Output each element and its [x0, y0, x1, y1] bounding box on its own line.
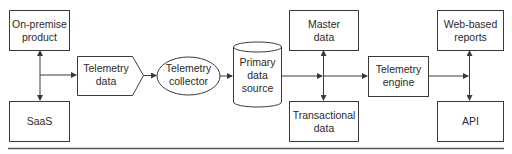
node-label: Master	[308, 18, 341, 30]
node-label: On-premise	[12, 18, 67, 30]
node-saas: SaaS	[10, 102, 70, 142]
middle-junction-connectors	[282, 51, 368, 100]
node-label: data	[314, 122, 335, 134]
flow-diagram: On-premise product SaaS Telemetry data T…	[0, 0, 512, 154]
node-label: Telemetry	[83, 62, 129, 74]
right-junction-connectors	[429, 51, 470, 100]
node-label: Telemetry	[376, 63, 422, 75]
node-label: Primary	[239, 56, 276, 68]
left-junction-connectors	[40, 51, 76, 100]
node-transactional-data: Transactional data	[290, 102, 359, 142]
node-primary-data-source: Primary data source	[234, 42, 282, 107]
node-telemetry-engine: Telemetry engine	[369, 57, 429, 97]
node-label: product	[22, 31, 57, 43]
node-label: Transactional	[293, 109, 356, 121]
node-on-premise-product: On-premise product	[10, 11, 70, 51]
node-master-data: Master data	[290, 11, 359, 51]
node-label: source	[242, 82, 274, 94]
node-label: data	[314, 31, 335, 43]
node-label: reports	[454, 31, 487, 43]
node-api: API	[438, 102, 504, 142]
node-label: data	[96, 75, 117, 87]
node-label: SaaS	[27, 115, 53, 127]
node-label: Telemetry	[166, 62, 212, 74]
node-label: data	[247, 69, 268, 81]
node-label: engine	[383, 76, 415, 88]
node-telemetry-data: Telemetry data	[78, 57, 144, 96]
node-label: Web-based	[444, 18, 498, 30]
node-telemetry-collector: Telemetry collector	[157, 57, 220, 95]
node-label: collector	[169, 75, 209, 87]
node-label: API	[462, 115, 479, 127]
node-web-based-reports: Web-based reports	[438, 11, 504, 51]
